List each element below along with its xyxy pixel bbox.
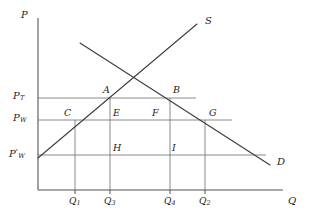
price-label-pw-subscript: W <box>20 116 27 124</box>
quantity-label-q4: Q4 <box>164 197 176 207</box>
p-axis-label: P <box>21 10 28 20</box>
point-label-h: H <box>113 143 121 153</box>
quantity-label-q3-subscript: 3 <box>111 199 115 207</box>
supply-curve-label: S <box>205 16 212 26</box>
price-label-pw-base: P <box>13 112 20 123</box>
price-label-pw-prime-base: P <box>9 148 16 159</box>
point-label-g: G <box>209 108 217 118</box>
supply-demand-tariff-figure: P Q PT PW P'W Q1 Q3 Q4 Q2 S D A B C E F … <box>0 0 309 223</box>
quantity-label-q1: Q1 <box>69 197 81 207</box>
point-label-f: F <box>152 108 159 118</box>
point-label-i: I <box>172 143 176 153</box>
price-label-pt: PT <box>13 91 24 102</box>
quantity-label-q2: Q2 <box>199 197 211 207</box>
point-label-a: A <box>103 85 110 95</box>
price-label-pt-subscript: T <box>20 94 25 102</box>
price-label-pt-base: P <box>13 90 20 101</box>
quantity-label-q4-subscript: 4 <box>171 199 175 207</box>
quantity-label-q1-subscript: 1 <box>76 199 80 207</box>
quantity-label-q3: Q3 <box>104 197 116 207</box>
point-label-e: E <box>113 108 120 118</box>
point-label-c: C <box>64 108 71 118</box>
quantity-label-q2-subscript: 2 <box>206 199 210 207</box>
price-label-pw-prime: P'W <box>9 148 25 159</box>
price-label-pw-prime-subscript: W <box>18 152 25 160</box>
demand-curve-label: D <box>277 157 285 167</box>
price-label-pw: PW <box>13 113 27 124</box>
point-label-b: B <box>173 85 180 95</box>
q-axis-label: Q <box>288 196 296 206</box>
